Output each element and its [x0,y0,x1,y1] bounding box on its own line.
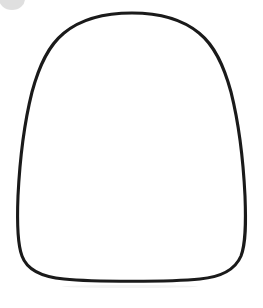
faint-grey-smudge-decoration [62,285,198,288]
rounded-bell-outline-path [17,13,245,281]
shape-outline-svg [0,0,263,308]
image-canvas [0,0,263,308]
